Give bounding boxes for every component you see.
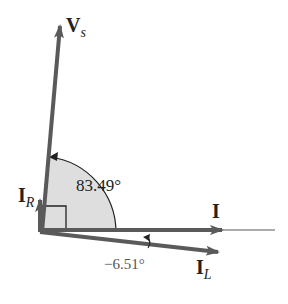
il-arc-arrowhead-icon bbox=[143, 234, 150, 241]
label-vs: Vs bbox=[66, 14, 86, 37]
label-i: I bbox=[212, 200, 220, 223]
label-il: IL bbox=[196, 256, 212, 279]
angle-label-il: −6.51° bbox=[104, 256, 145, 273]
label-ir: IR bbox=[18, 184, 34, 207]
angle-label-vs: 83.49° bbox=[76, 176, 121, 196]
phasor-IL bbox=[40, 232, 218, 252]
